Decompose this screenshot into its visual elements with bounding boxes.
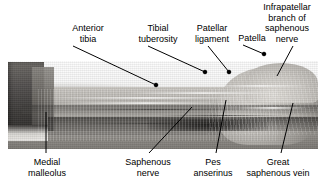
label-infrapatellar-branch-of-saphenous-nerve-line-2: branch of [126,13,323,24]
leader-line-pes-anserinus [216,100,226,153]
figure-anatomical-diagram: AnteriortibiaTibialtuberosityPatellarlig… [0,0,323,189]
leader-line-patella [243,45,264,54]
leader-endpoint-anterior-tibia [154,83,158,87]
leader-line-saphenous-nerve [149,107,192,153]
leader-line-infrapatellar-branch-of-saphenous-nerve [277,46,293,76]
leader-line-patellar-ligament [208,46,229,72]
leader-line-anterior-tibia [73,46,156,85]
leader-line-great-saphenous-vein [281,103,293,153]
leader-endpoint-tibial-tuberosity [203,70,207,74]
label-great-saphenous-vein-line-1: Great [117,157,323,168]
label-infrapatellar-branch-of-saphenous-nerve-line-1: Infrapatellar [126,2,323,13]
label-infrapatellar-branch-of-saphenous-nerve-line-4: nerve [126,34,323,45]
label-great-saphenous-vein-line-2: saphenous vein [117,168,323,179]
leader-endpoint-patella [262,52,266,56]
leader-endpoint-patellar-ligament [227,70,231,74]
label-infrapatellar-branch-of-saphenous-nerve-line-3: saphenous [126,23,323,34]
leader-line-tibial-tuberosity [148,46,205,72]
